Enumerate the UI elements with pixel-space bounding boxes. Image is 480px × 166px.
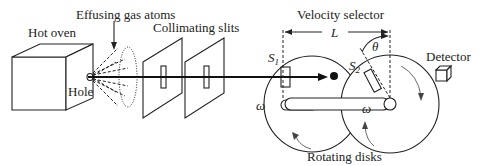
detector — [436, 66, 451, 81]
atom-particle — [330, 72, 338, 80]
s2-label: S2 — [349, 58, 361, 75]
omega-left-label: ω — [256, 98, 265, 113]
collimating-slits-label: Collimating slits — [153, 20, 239, 35]
hot-oven-label: Hot oven — [28, 25, 77, 40]
hole-label: Hole — [68, 84, 94, 99]
effusing-arrow — [111, 21, 117, 50]
omega-right-label: ω — [362, 101, 371, 116]
hot-oven — [12, 44, 93, 110]
rotating-disks-label: Rotating disks — [307, 149, 382, 164]
length-label: L — [330, 25, 338, 40]
s1-label: S1 — [268, 50, 279, 67]
velocity-selector-label: Velocity selector — [297, 7, 385, 22]
theta-label: θ — [372, 39, 379, 54]
detector-label: Detector — [426, 49, 471, 64]
molecular-beam-diagram: Hot oven Effusing gas atoms Collimating … — [0, 0, 480, 166]
